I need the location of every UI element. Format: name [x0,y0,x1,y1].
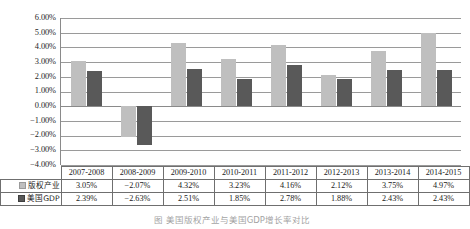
y-axis-tick-label: 3.00% [6,58,56,66]
y-axis: 6.00%5.00%4.00%3.00%2.00%1.00%0.00%−1.00… [6,12,58,170]
table-col-header: 2011-2012 [265,167,316,180]
table-cell: 2.43% [418,193,469,206]
table-cell: 3.75% [367,180,418,193]
bar-美国GDP-2014-2015[interactable] [437,70,452,106]
table-col-header: 2012-2013 [316,167,367,180]
table-cell: 3.05% [61,180,112,193]
bars-layer [61,18,461,165]
bar-美国GDP-2008-2009[interactable] [137,106,152,145]
table-col-header: 2009-2010 [163,167,214,180]
bar-版权产业-2010-2011[interactable] [221,59,236,106]
table-cell: 2.39% [61,193,112,206]
bar-美国GDP-2010-2011[interactable] [237,79,252,106]
table-row: 美国GDP2.39%−2.63%2.51%1.85%2.78%1.88%2.43… [1,193,470,206]
table-cell: 3.23% [214,180,265,193]
table-col-header: 2013-2014 [367,167,418,180]
bar-美国GDP-2007-2008[interactable] [87,71,102,106]
table-row: 版权产业3.05%−2.07%4.32%3.23%4.16%2.12%3.75%… [1,180,470,193]
plot-area [60,18,460,165]
table-cell: 4.32% [163,180,214,193]
y-axis-tick-label: −1.00% [6,117,56,125]
table-col-header: 2007-2008 [61,167,112,180]
table-cell: 4.16% [265,180,316,193]
table-corner-cell [1,167,62,180]
table-body: 版权产业3.05%−2.07%4.32%3.23%4.16%2.12%3.75%… [1,180,470,206]
bar-版权产业-2009-2010[interactable] [171,43,186,107]
table-cell: 1.85% [214,193,265,206]
bar-版权产业-2012-2013[interactable] [321,75,336,106]
bar-chart: 6.00%5.00%4.00%3.00%2.00%1.00%0.00%−1.00… [0,12,464,170]
y-axis-tick-label: 4.00% [6,43,56,51]
bar-版权产业-2007-2008[interactable] [71,61,86,106]
table-col-header: 2010-2011 [214,167,265,180]
y-axis-tick-label: −3.00% [6,146,56,154]
y-axis-tick-label: 5.00% [6,29,56,37]
y-axis-tick-label: 2.00% [6,73,56,81]
table-cell: 4.97% [418,180,469,193]
bar-版权产业-2011-2012[interactable] [271,45,286,106]
legend-label: 美国GDP [27,194,59,203]
bar-group [61,18,111,165]
figure-caption: 图 美国版权产业与美国GDP增长率对比 [0,215,464,225]
bar-美国GDP-2012-2013[interactable] [337,79,352,107]
bar-group [261,18,311,165]
table-col-header: 2008-2009 [112,167,163,180]
bar-group [111,18,161,165]
table-header-row: 2007-20082008-20092009-20102010-20112011… [1,167,470,180]
y-axis-tick-label: 0.00% [6,102,56,110]
bar-版权产业-2013-2014[interactable] [371,51,386,106]
bar-版权产业-2014-2015[interactable] [421,33,436,106]
table-col-header: 2014-2015 [418,167,469,180]
legend-swatch-icon [19,182,26,189]
bar-group [361,18,411,165]
legend-row-header[interactable]: 版权产业 [1,180,62,193]
table-cell: 2.43% [367,193,418,206]
table-cell: 1.88% [316,193,367,206]
data-table: 2007-20082008-20092009-20102010-20112011… [0,166,470,206]
bar-group [311,18,361,165]
legend-label: 版权产业 [28,181,60,190]
y-axis-tick-label: 6.00% [6,14,56,22]
bar-group [411,18,461,165]
y-axis-tick-label: −2.00% [6,131,56,139]
bar-group [161,18,211,165]
y-axis-tick-label: 1.00% [6,87,56,95]
legend-row-header[interactable]: 美国GDP [1,193,62,206]
table-cell: 2.78% [265,193,316,206]
bar-美国GDP-2009-2010[interactable] [187,69,202,106]
table-cell: 2.12% [316,180,367,193]
table-cell: 2.51% [163,193,214,206]
bar-版权产业-2008-2009[interactable] [121,106,136,136]
bar-美国GDP-2011-2012[interactable] [287,65,302,106]
bar-group [211,18,261,165]
table-cell: −2.63% [112,193,163,206]
legend-swatch-icon [18,195,25,202]
table-cell: −2.07% [112,180,163,193]
bar-美国GDP-2013-2014[interactable] [387,70,402,106]
